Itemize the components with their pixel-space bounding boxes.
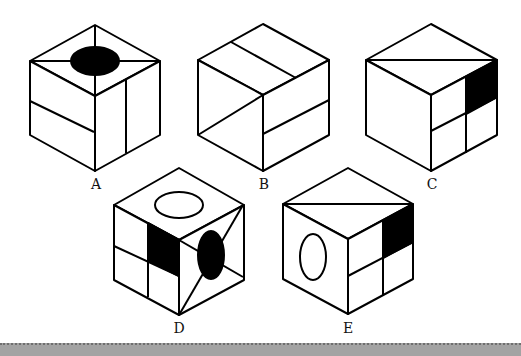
cube-a [30,25,160,171]
cube-label-b: B [259,177,269,191]
cube-figure: A B C D E [0,0,521,356]
cube-e [283,168,413,314]
white-ellipse-icon [300,234,326,280]
black-ellipse-icon [198,231,224,279]
black-ellipse-icon [71,47,119,75]
cube-label-c: C [427,177,438,191]
cube-c [366,24,497,171]
cube-d [114,168,244,315]
cube-b [198,24,329,171]
cube-label-a: A [91,177,101,191]
footer-band [0,343,521,356]
cube-label-d: D [173,321,184,335]
cube-label-e: E [343,321,353,335]
white-ellipse-icon [155,192,203,218]
